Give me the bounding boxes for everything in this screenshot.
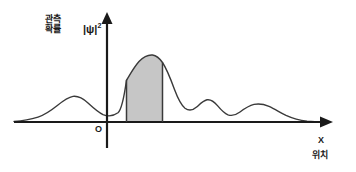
shaded-probability-region [127, 55, 163, 122]
probability-density-figure: 관측 확률 |ψ|2 O X 위치 [0, 0, 356, 172]
y-axis-label-line-1: 관측 [45, 14, 61, 24]
y-axis-label-korean: 관측 확률 [45, 14, 61, 35]
y-axis-arrowhead [102, 12, 113, 24]
x-axis-arrowhead [320, 117, 333, 128]
psi-exponent: 2 [97, 22, 101, 29]
origin-label: O [95, 124, 102, 134]
probability-density-curve [14, 55, 324, 122]
y-axis-label-line-2: 확률 [45, 24, 61, 34]
x-axis-label-korean: 위치 [312, 150, 328, 160]
x-axis-label-symbol: X [318, 135, 324, 145]
y-axis-label-symbol: |ψ|2 [83, 22, 101, 35]
